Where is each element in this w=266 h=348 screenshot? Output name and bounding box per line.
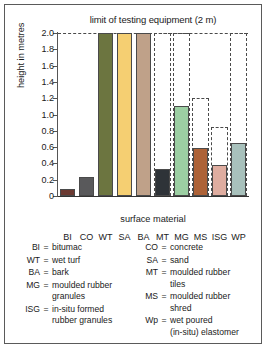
- legend-abbreviation: Wp: [130, 315, 158, 326]
- legend-equals-sign: =: [40, 304, 52, 315]
- legend-row: BA=bark: [12, 267, 130, 278]
- y-tick-label: 1.8: [41, 45, 54, 54]
- legend-definition: in-situ formedrubber granules: [52, 304, 130, 327]
- y-tick-label: 1.2: [41, 94, 54, 103]
- y-axis-title: height in metres: [16, 23, 26, 88]
- legend-equals-sign: =: [158, 255, 170, 266]
- bar-wp: [231, 143, 245, 196]
- legend-row: CO=concrete: [130, 242, 254, 253]
- y-tick-label: 0.2: [41, 175, 54, 184]
- chart-title: limit of testing equipment (2 m): [46, 14, 260, 25]
- legend-abbreviation: MS: [130, 291, 158, 302]
- legend-abbreviation: MT: [130, 267, 158, 278]
- legend-equals-sign: =: [40, 242, 52, 253]
- y-tick-label: 0.8: [41, 126, 54, 135]
- legend-column-right: CO=concreteSA=sandMT=moulded rubbertiles…: [130, 242, 254, 342]
- legend-row: WT=wet turf: [12, 255, 130, 266]
- legend-abbreviation: ISG: [12, 304, 40, 315]
- legend-row: BI=bitumac: [12, 242, 130, 253]
- bar-ms: [193, 148, 207, 196]
- legend-equals-sign: =: [40, 280, 52, 291]
- y-axis-title-holder: height in metres: [22, 60, 34, 170]
- legend-abbreviation: CO: [130, 242, 158, 253]
- y-tick-label: 0.6: [41, 143, 54, 152]
- legend-definition-continued: granules: [52, 291, 130, 302]
- y-tick-label: 0.4: [41, 159, 54, 168]
- legend-abbreviation: SA: [130, 255, 158, 266]
- legend-equals-sign: =: [158, 267, 170, 278]
- legend-definition: concrete: [170, 242, 254, 253]
- x-axis-line: [57, 196, 249, 197]
- bar-bi: [60, 189, 74, 196]
- x-axis-title: surface material: [58, 214, 248, 224]
- y-tick-label: 1.0: [41, 110, 54, 119]
- bar-ba: [136, 33, 150, 196]
- legend-definition-continued: shred: [170, 303, 254, 314]
- legend-definition: bitumac: [52, 242, 130, 253]
- legend-row: MS=moulded rubbershred: [130, 291, 254, 314]
- legend-abbreviation: WT: [12, 255, 40, 266]
- legend-row: Wp=wet poured(in-situ) elastomer: [130, 315, 254, 338]
- bar-co: [79, 177, 93, 196]
- legend-abbreviation: BA: [12, 267, 40, 278]
- bar-mg: [174, 106, 188, 196]
- legend-definition-continued: tiles: [170, 279, 254, 290]
- legend-definition: wet turf: [52, 255, 130, 266]
- legend-equals-sign: =: [158, 242, 170, 253]
- bar-mt: [155, 169, 169, 196]
- y-tick-label: 1.6: [41, 61, 54, 70]
- bar-isg: [212, 165, 226, 196]
- plot-region: 00.20.40.60.81.01.21.41.61.82.0 BICOWTSA…: [58, 33, 248, 196]
- figure-container: limit of testing equipment (2 m) height …: [0, 0, 266, 348]
- y-tick-label: 0: [49, 192, 54, 201]
- bar-chart: limit of testing equipment (2 m) height …: [0, 0, 266, 232]
- legend-row: MG=moulded rubbergranules: [12, 280, 130, 303]
- legend-definition-continued: (in-situ) elastomer: [170, 327, 254, 338]
- legend-row: SA=sand: [130, 255, 254, 266]
- legend-abbreviation: BI: [12, 242, 40, 253]
- legend-definition: moulded rubbergranules: [52, 280, 130, 303]
- legend-column-left: BI=bitumacWT=wet turfBA=barkMG=moulded r…: [12, 242, 130, 342]
- legend: BI=bitumacWT=wet turfBA=barkMG=moulded r…: [4, 236, 262, 342]
- y-tick-label: 1.4: [41, 77, 54, 86]
- legend-row: ISG=in-situ formedrubber granules: [12, 304, 130, 327]
- legend-equals-sign: =: [158, 315, 170, 326]
- legend-equals-sign: =: [40, 267, 52, 278]
- bar-sa: [117, 33, 131, 196]
- legend-definition: moulded rubbershred: [170, 291, 254, 314]
- legend-definition: moulded rubbertiles: [170, 267, 254, 290]
- legend-row: MT=moulded rubbertiles: [130, 267, 254, 290]
- legend-abbreviation: MG: [12, 280, 40, 291]
- legend-equals-sign: =: [158, 291, 170, 302]
- legend-definition: wet poured(in-situ) elastomer: [170, 315, 254, 338]
- y-tick-label: 2.0: [41, 29, 54, 38]
- legend-definition: bark: [52, 267, 130, 278]
- legend-definition-continued: rubber granules: [52, 315, 130, 326]
- bar-wt: [98, 33, 112, 196]
- legend-definition: sand: [170, 255, 254, 266]
- legend-equals-sign: =: [40, 255, 52, 266]
